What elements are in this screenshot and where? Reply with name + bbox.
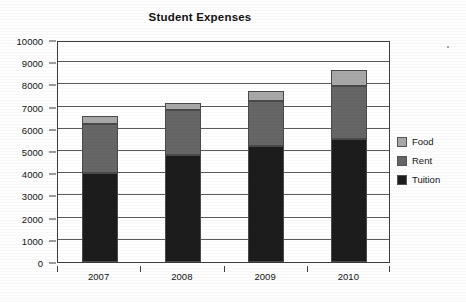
x-axis: 2007200820092010 xyxy=(57,266,390,288)
bar-segment-2008-food[interactable] xyxy=(165,103,201,110)
y-tick-label-0: 0 xyxy=(38,258,43,269)
bar-segment-2008-rent[interactable] xyxy=(165,110,201,155)
legend-label-food: Food xyxy=(412,136,434,147)
y-tick-label-10000: 10000 xyxy=(17,36,43,47)
x-tick-label-2008: 2008 xyxy=(171,271,192,282)
legend-label-tuition: Tuition xyxy=(412,174,440,185)
bar-segment-2010-tuition[interactable] xyxy=(331,139,367,262)
bar-segment-2010-rent[interactable] xyxy=(331,86,367,139)
bar-segment-2009-food[interactable] xyxy=(248,91,284,101)
y-tick-label-3000: 3000 xyxy=(22,191,43,202)
y-tick-label-2000: 2000 xyxy=(22,213,43,224)
y-tick-label-6000: 6000 xyxy=(22,124,43,135)
y-tick-mark-9000 xyxy=(49,63,56,64)
y-tick-mark-2000 xyxy=(49,218,56,219)
y-tick-mark-3000 xyxy=(49,196,56,197)
x-tick-mark-1 xyxy=(140,266,141,272)
gridline-9000 xyxy=(58,61,389,62)
legend-swatch-food xyxy=(397,137,407,147)
legend-item-food[interactable]: Food xyxy=(397,132,463,151)
y-tick-label-5000: 5000 xyxy=(22,147,43,158)
y-tick-mark-10000 xyxy=(49,41,56,42)
bar-segment-2007-food[interactable] xyxy=(82,116,118,125)
legend-item-tuition[interactable]: Tuition xyxy=(397,170,463,189)
x-tick-mark-0 xyxy=(57,266,58,272)
bar-segment-2007-tuition[interactable] xyxy=(82,173,118,262)
y-axis: 0100020003000400050006000700080009000100… xyxy=(0,41,51,263)
y-tick-mark-6000 xyxy=(49,129,56,130)
legend-label-rent: Rent xyxy=(412,155,432,166)
y-tick-label-4000: 4000 xyxy=(22,169,43,180)
x-tick-mark-2 xyxy=(224,266,225,272)
y-tick-mark-5000 xyxy=(49,152,56,153)
chart-title: Student Expenses xyxy=(0,11,400,23)
x-tick-mark-4 xyxy=(389,266,390,272)
plot-area xyxy=(57,41,390,263)
bar-segment-2010-food[interactable] xyxy=(331,70,367,86)
legend-swatch-tuition xyxy=(397,175,407,185)
x-tick-label-2010: 2010 xyxy=(338,271,359,282)
y-tick-mark-4000 xyxy=(49,174,56,175)
chart-container: Student Expenses 01000200030004000500060… xyxy=(0,0,466,302)
y-tick-label-1000: 1000 xyxy=(22,235,43,246)
y-tick-mark-7000 xyxy=(49,107,56,108)
bar-segment-2008-tuition[interactable] xyxy=(165,155,201,262)
x-tick-mark-3 xyxy=(307,266,308,272)
y-tick-mark-8000 xyxy=(49,85,56,86)
chart-legend: FoodRentTuition xyxy=(397,132,463,189)
y-tick-mark-0 xyxy=(49,263,56,264)
bar-segment-2009-tuition[interactable] xyxy=(248,146,284,262)
legend-item-rent[interactable]: Rent xyxy=(397,151,463,170)
scan-artifact-speck xyxy=(447,46,449,48)
y-tick-mark-1000 xyxy=(49,240,56,241)
bar-segment-2009-rent[interactable] xyxy=(248,101,284,146)
x-tick-label-2009: 2009 xyxy=(255,271,276,282)
y-tick-label-9000: 9000 xyxy=(22,58,43,69)
bar-segment-2007-rent[interactable] xyxy=(82,124,118,173)
x-tick-label-2007: 2007 xyxy=(88,271,109,282)
y-tick-label-8000: 8000 xyxy=(22,80,43,91)
y-tick-label-7000: 7000 xyxy=(22,102,43,113)
legend-swatch-rent xyxy=(397,156,407,166)
